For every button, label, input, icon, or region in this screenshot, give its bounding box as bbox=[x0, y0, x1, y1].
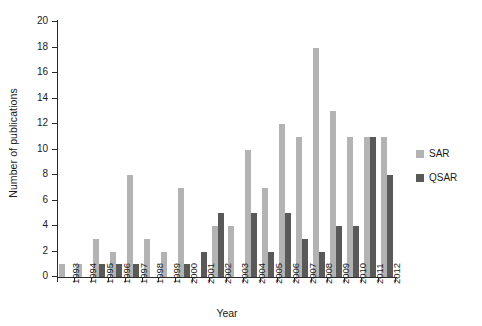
x-tick-label-text: 1999 bbox=[171, 263, 183, 284]
x-tick-label-text: 1997 bbox=[138, 263, 150, 284]
x-tick-label-text: 1994 bbox=[87, 263, 99, 284]
x-tick bbox=[243, 277, 244, 282]
y-tick: 20 bbox=[52, 21, 57, 22]
x-tick bbox=[277, 277, 278, 282]
x-tick-label-text: 1996 bbox=[121, 263, 133, 284]
x-tick bbox=[311, 277, 312, 282]
x-tick bbox=[327, 277, 328, 282]
y-tick-label: 18 bbox=[37, 40, 48, 53]
y-axis-title-label: Number of publications bbox=[7, 88, 19, 198]
y-tick: 2 bbox=[52, 251, 57, 252]
bar-sar-1993 bbox=[59, 264, 65, 277]
y-tick-label: 10 bbox=[37, 142, 48, 155]
y-tick-label: 14 bbox=[37, 91, 48, 104]
x-tick-label-text: 2012 bbox=[391, 263, 403, 284]
y-tick-label: 6 bbox=[42, 193, 48, 206]
x-tick bbox=[91, 277, 92, 282]
y-tick-label: 16 bbox=[37, 65, 48, 78]
y-tick: 12 bbox=[52, 123, 57, 124]
x-tick-label-text: 2000 bbox=[188, 263, 200, 284]
y-tick-label: 0 bbox=[42, 269, 48, 282]
y-tick: 18 bbox=[52, 47, 57, 48]
x-axis-title: Year bbox=[57, 307, 397, 319]
x-tick bbox=[57, 277, 58, 282]
x-tick bbox=[125, 277, 126, 282]
legend-label: QSAR bbox=[429, 172, 457, 183]
bar-qsar-2012 bbox=[387, 175, 393, 277]
x-tick bbox=[108, 277, 109, 282]
publications-bar-chart: Number of publications 02468101214161820… bbox=[0, 0, 482, 326]
x-tick-label-text: 2007 bbox=[307, 263, 319, 284]
legend-label: SAR bbox=[429, 148, 450, 159]
y-axis-title: Number of publications bbox=[0, 0, 26, 285]
x-tick-label-text: 2011 bbox=[374, 264, 386, 284]
x-tick-label-text: 2001 bbox=[205, 263, 217, 284]
bar-sar-1997 bbox=[127, 175, 133, 277]
y-tick: 10 bbox=[52, 149, 57, 150]
chart-legend: SARQSAR bbox=[416, 148, 478, 196]
y-tick-label: 4 bbox=[42, 218, 48, 231]
plot-area: 02468101214161820 bbox=[57, 22, 395, 277]
x-tick-label-text: 1995 bbox=[104, 263, 116, 284]
y-tick: 8 bbox=[52, 174, 57, 175]
legend-swatch-icon bbox=[416, 174, 424, 182]
x-tick bbox=[395, 277, 396, 282]
x-tick-label-text: 1998 bbox=[154, 263, 166, 284]
legend-swatch-icon bbox=[416, 150, 424, 158]
x-tick bbox=[158, 277, 159, 282]
y-tick: 6 bbox=[52, 200, 57, 201]
x-tick bbox=[344, 277, 345, 282]
x-tick-label-text: 2002 bbox=[222, 263, 234, 284]
x-tick bbox=[142, 277, 143, 282]
y-tick-label: 2 bbox=[42, 244, 48, 257]
x-tick bbox=[192, 277, 193, 282]
y-tick-label: 20 bbox=[37, 14, 48, 27]
x-tick-label-text: 2005 bbox=[273, 263, 285, 284]
y-tick-label: 12 bbox=[37, 116, 48, 129]
legend-item-qsar[interactable]: QSAR bbox=[416, 172, 478, 183]
x-tick bbox=[260, 277, 261, 282]
y-tick-label: 8 bbox=[42, 167, 48, 180]
x-tick bbox=[294, 277, 295, 282]
x-tick-label-text: 2006 bbox=[290, 263, 302, 284]
x-tick-label-text: 1993 bbox=[70, 263, 82, 284]
x-tick bbox=[226, 277, 227, 282]
x-tick-label-text: 2009 bbox=[340, 263, 352, 284]
y-tick: 14 bbox=[52, 98, 57, 99]
x-tick-label-text: 2003 bbox=[239, 263, 251, 284]
x-tick-label-text: 2008 bbox=[323, 263, 335, 284]
bar-qsar-2011 bbox=[370, 137, 376, 277]
y-tick: 4 bbox=[52, 225, 57, 226]
x-tick bbox=[209, 277, 210, 282]
x-tick-label-text: 2004 bbox=[256, 263, 268, 284]
bar-sar-2008 bbox=[313, 48, 319, 278]
y-tick: 16 bbox=[52, 72, 57, 73]
x-tick-label-text: 2010 bbox=[357, 263, 369, 284]
x-tick bbox=[361, 277, 362, 282]
x-tick bbox=[378, 277, 379, 282]
x-tick bbox=[175, 277, 176, 282]
x-tick bbox=[74, 277, 75, 282]
legend-item-sar[interactable]: SAR bbox=[416, 148, 478, 159]
